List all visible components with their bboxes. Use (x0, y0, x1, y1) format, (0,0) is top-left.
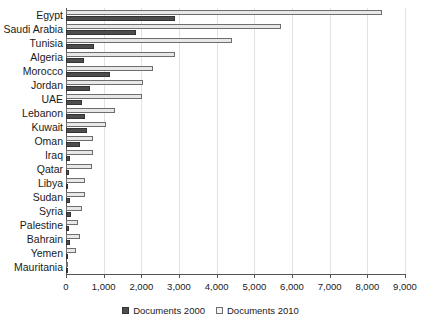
legend-swatch-icon (216, 307, 223, 314)
bar-documents-2010[interactable] (66, 150, 93, 155)
bar-documents-2000[interactable] (66, 72, 110, 77)
bar-documents-2000[interactable] (66, 240, 70, 245)
bar-row: Lebanon (0, 106, 421, 120)
bar-documents-2010[interactable] (66, 178, 85, 183)
bar-documents-2010[interactable] (66, 38, 232, 43)
bar-documents-2000[interactable] (66, 212, 71, 217)
bar-documents-2010[interactable] (66, 220, 78, 225)
category-label: UAE (41, 94, 63, 105)
bar-documents-2000[interactable] (66, 156, 70, 161)
bar-documents-2000[interactable] (66, 86, 90, 91)
bar-documents-2010[interactable] (66, 10, 382, 15)
x-axis-tick-label: 5,000 (242, 281, 266, 292)
legend-swatch-icon (122, 307, 129, 314)
bar-row: Qatar (0, 162, 421, 176)
bar-documents-2000[interactable] (66, 254, 68, 259)
category-label: Syria (39, 206, 63, 217)
category-label: Kuwait (31, 122, 63, 133)
category-label: Oman (34, 136, 63, 147)
category-label: Libya (38, 178, 63, 189)
bar-documents-2000[interactable] (66, 114, 85, 119)
bar-documents-2010[interactable] (66, 136, 93, 141)
x-axis-tick-label: 2,000 (129, 281, 153, 292)
bar-documents-2000[interactable] (66, 198, 70, 203)
category-label: Saudi Arabia (3, 24, 63, 35)
x-axis-tick (217, 274, 218, 278)
x-axis-tick (141, 274, 142, 278)
chart-title (66, 0, 406, 4)
bar-documents-2000[interactable] (66, 30, 136, 35)
bar-documents-2010[interactable] (66, 52, 175, 57)
bar-documents-2000[interactable] (66, 128, 87, 133)
legend-label: Documents 2010 (227, 305, 299, 316)
bar-documents-2010[interactable] (66, 206, 82, 211)
x-axis-tick-label: 1,000 (92, 281, 116, 292)
bar-documents-2010[interactable] (66, 164, 92, 169)
bar-documents-2010[interactable] (66, 192, 85, 197)
bar-documents-2000[interactable] (66, 58, 84, 63)
bar-documents-2010[interactable] (66, 66, 153, 71)
bar-row: Morocco (0, 64, 421, 78)
bar-row: Oman (0, 134, 421, 148)
bar-row: Iraq (0, 148, 421, 162)
x-axis-tick-label: 4,000 (205, 281, 229, 292)
x-axis-tick-label: 3,000 (167, 281, 191, 292)
bar-documents-2010[interactable] (66, 80, 143, 85)
bar-documents-2000[interactable] (66, 268, 68, 273)
bar-row: Kuwait (0, 120, 421, 134)
category-label: Qatar (37, 164, 63, 175)
bar-documents-2010[interactable] (66, 122, 106, 127)
bar-row: Sudan (0, 190, 421, 204)
x-axis-line (66, 274, 406, 275)
category-label: Yemen (31, 248, 63, 259)
bar-documents-2010[interactable] (66, 248, 76, 253)
category-label: Jordan (31, 80, 63, 91)
legend-label: Documents 2000 (133, 305, 205, 316)
category-label: Bahrain (27, 234, 63, 245)
category-label: Lebanon (22, 108, 63, 119)
bar-row: UAE (0, 92, 421, 106)
bar-row: Syria (0, 204, 421, 218)
bar-row: Egypt (0, 8, 421, 22)
bar-documents-2010[interactable] (66, 24, 281, 29)
chart-legend: Documents 2000 Documents 2010 (0, 305, 421, 316)
x-axis-tick (367, 274, 368, 278)
bar-documents-2000[interactable] (66, 170, 69, 175)
bar-row: Libya (0, 176, 421, 190)
x-axis-tick-label: 0 (63, 281, 68, 292)
x-axis-tick (104, 274, 105, 278)
category-label: Sudan (33, 192, 63, 203)
bar-documents-2010[interactable] (66, 262, 68, 267)
bar-row: Bahrain (0, 232, 421, 246)
bar-row: Jordan (0, 78, 421, 92)
x-axis-tick (405, 274, 406, 278)
x-axis-tick-label: 9,000 (393, 281, 417, 292)
bar-documents-2000[interactable] (66, 16, 175, 21)
x-axis-tick (66, 274, 67, 278)
category-label: Algeria (30, 52, 63, 63)
bar-row: Palestine (0, 218, 421, 232)
bar-row: Mauritania (0, 260, 421, 274)
bar-documents-2000[interactable] (66, 226, 69, 231)
x-axis-tick (292, 274, 293, 278)
bar-documents-2010[interactable] (66, 94, 142, 99)
bar-documents-2000[interactable] (66, 44, 94, 49)
x-axis-tick (330, 274, 331, 278)
legend-item-documents-2000[interactable]: Documents 2000 (122, 305, 205, 316)
x-axis-tick-label: 8,000 (355, 281, 379, 292)
category-label: Palestine (20, 220, 63, 231)
x-axis-tick (254, 274, 255, 278)
bar-documents-2000[interactable] (66, 100, 82, 105)
category-label: Morocco (23, 66, 63, 77)
bar-row: Algeria (0, 50, 421, 64)
category-label: Mauritania (14, 262, 63, 273)
legend-item-documents-2010[interactable]: Documents 2010 (216, 305, 299, 316)
bar-documents-2010[interactable] (66, 108, 115, 113)
bar-row: Saudi Arabia (0, 22, 421, 36)
bar-documents-2010[interactable] (66, 234, 80, 239)
x-axis-tick (179, 274, 180, 278)
bar-documents-2000[interactable] (66, 184, 68, 189)
category-label: Iraq (45, 150, 63, 161)
bar-documents-2000[interactable] (66, 142, 80, 147)
bar-row: Yemen (0, 246, 421, 260)
